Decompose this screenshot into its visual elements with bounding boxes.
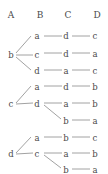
node-D-r1: a [92,49,97,59]
edge-b-to-a [16,36,31,53]
header-layer: ABCD [7,10,101,20]
column-header-d: D [93,10,100,20]
edge-d-to-b [44,105,61,119]
node-B-r7: c [35,149,40,159]
node-C-r0: d [63,31,69,41]
node-C-r1: d [63,49,69,59]
edge-b-to-d [16,57,31,70]
node-B-r6: a [34,133,39,143]
node-A-c: c [9,99,14,109]
edge-layer [16,36,90,169]
node-D-r2: c [93,66,98,76]
node-A-d: d [8,149,14,159]
node-B-r3: a [34,82,39,92]
edge-c-to-d [16,103,33,104]
node-B-r4: d [34,99,40,109]
node-C-r5: b [63,116,69,126]
node-B-r0: a [34,31,39,41]
edge-d-to-c [16,153,33,154]
node-D-r7: b [92,149,98,159]
node-C-r2: a [63,66,68,76]
node-D-r5: a [92,116,97,126]
node-D-r6: c [93,133,98,143]
node-C-r4: a [63,99,68,109]
node-C-r3: d [63,82,69,92]
edge-c-to-b2 [44,155,61,168]
tree-diagram: ABCD bcdacdadacddadabbabcacbbacba [0,0,108,174]
node-D-r3: b [92,82,98,92]
node-B-r2: d [34,66,40,76]
column-header-c: C [65,10,72,20]
node-D-r8: a [92,165,97,174]
node-A-b: b [8,50,14,60]
column-header-b: B [37,10,44,20]
node-D-r4: b [92,99,98,109]
column-header-a: A [7,10,15,20]
node-B-r1: c [35,50,40,60]
node-D-r0: c [93,31,98,41]
node-C-r7: a [63,149,68,159]
node-C-r6: b [63,133,69,143]
node-C-r8: b [63,165,69,174]
edge-c-to-a [16,86,31,103]
edge-d-to-a [16,137,31,153]
